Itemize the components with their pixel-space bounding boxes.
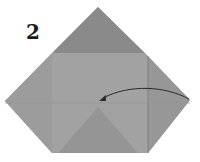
- origami-diagram: [0, 0, 200, 162]
- right-wing: [148, 56, 190, 153]
- top-flap: [52, 7, 145, 53]
